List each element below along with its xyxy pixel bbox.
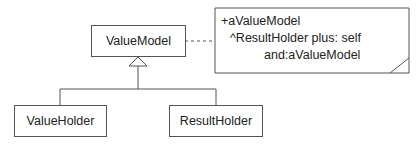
note-line: ^ResultHolder plus: self [230,30,361,47]
class-value-holder[interactable]: ValueHolder [14,105,107,137]
class-value-model[interactable]: ValueModel [91,25,186,57]
note-line: +aValueModel [221,13,300,30]
class-name: ValueModel [106,34,171,48]
class-name: ResultHolder [180,114,252,128]
class-result-holder[interactable]: ResultHolder [169,105,263,137]
note[interactable]: +aValueModel ^ResultHolder plus: self an… [215,8,410,74]
note-line: and:aValueModel [264,47,360,64]
class-name: ValueHolder [27,114,95,128]
generalization-arrow-icon [129,57,147,66]
